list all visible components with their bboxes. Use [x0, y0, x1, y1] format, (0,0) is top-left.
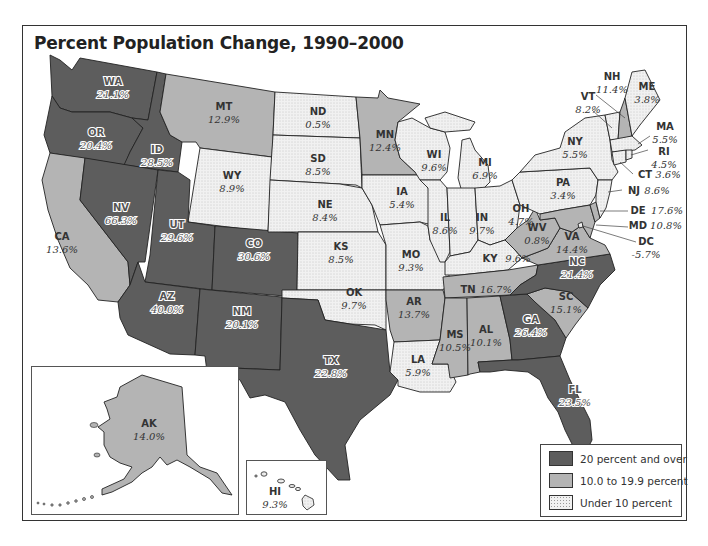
label-LA-pct: 5.9%	[405, 367, 430, 378]
state-NJ[interactable]	[596, 180, 612, 218]
label-WA-pct: 21.1%	[96, 89, 129, 100]
label-NM-pct: 20.1%	[225, 319, 258, 330]
label-GA-abbr: GA	[523, 314, 539, 325]
label-DE-pct: 17.6%	[651, 205, 683, 216]
label-CA-abbr: CA	[54, 231, 69, 242]
label-CO-abbr: CO	[246, 238, 262, 249]
label-VA-abbr: VA	[565, 231, 580, 242]
label-PA-abbr: PA	[556, 177, 570, 188]
legend-item-mid: 10.0 to 19.9 percent	[549, 473, 688, 488]
label-TX-abbr: TX	[324, 355, 339, 366]
label-IL-abbr: IL	[440, 212, 451, 223]
label-MA-abbr: MA	[656, 121, 674, 132]
state-CT[interactable]	[612, 150, 626, 165]
label-OR-abbr: OR	[88, 127, 105, 138]
label-MD-pct: 10.8%	[650, 220, 682, 231]
label-CT-pct: 3.6%	[655, 169, 680, 180]
label-AL-abbr: AL	[479, 324, 494, 335]
label-LA-abbr: LA	[411, 354, 425, 365]
label-AR-abbr: AR	[406, 296, 422, 307]
label-DC-abbr: DC	[638, 236, 654, 247]
label-WI-abbr: WI	[427, 149, 442, 160]
alaska-inset: AK 14.0%	[31, 366, 239, 515]
label-WY-abbr: WY	[223, 170, 242, 181]
state-AK[interactable]	[98, 375, 232, 495]
label-MA-pct: 5.5%	[652, 134, 677, 145]
label-UT-abbr: UT	[170, 219, 185, 230]
label-IA-abbr: IA	[396, 186, 408, 197]
label-AL-pct: 10.1%	[470, 337, 502, 348]
label-FL-pct: 23.5%	[558, 397, 591, 408]
label-VT-abbr: VT	[581, 91, 596, 102]
label-UT-pct: 29.6%	[160, 232, 193, 243]
label-WI-pct: 9.6%	[421, 162, 446, 173]
legend-swatch-low	[549, 495, 573, 510]
label-FL-abbr: FL	[568, 384, 582, 395]
label-MS-pct: 10.5%	[439, 342, 471, 353]
label-MI-abbr: MI	[478, 157, 492, 168]
label-OK-abbr: OK	[346, 287, 364, 298]
label-MT-pct: 12.9%	[208, 114, 240, 125]
label-ID-pct: 28.5%	[140, 157, 173, 168]
label-ND-abbr: ND	[310, 106, 327, 117]
aleutian-islands	[37, 423, 100, 507]
label-TX-pct: 22.8%	[314, 368, 347, 379]
label-IA-pct: 5.4%	[389, 199, 414, 210]
label-WA-abbr: WA	[104, 76, 123, 87]
legend-item-high: 20 percent and over	[549, 451, 687, 466]
label-CA-pct: 13.6%	[46, 244, 78, 255]
label-MN-pct: 12.4%	[369, 142, 401, 153]
label-NE-pct: 8.4%	[312, 212, 337, 223]
label-WV-abbr: WV	[528, 222, 547, 233]
label-KS-abbr: KS	[334, 241, 349, 252]
label-OR-pct: 20.4%	[79, 140, 112, 151]
legend: 20 percent and over 10.0 to 19.9 percent…	[540, 444, 682, 517]
label-CT-abbr: CT	[638, 169, 652, 180]
legend-label-low: Under 10 percent	[580, 497, 672, 509]
label-MO-pct: 9.3%	[398, 262, 423, 273]
label-AK-pct: 14.0%	[133, 431, 165, 442]
label-NV-pct: 66.3%	[105, 215, 137, 226]
label-MD-abbr: MD	[629, 220, 647, 231]
label-NJ-pct: 8.6%	[644, 185, 669, 196]
state-IN[interactable]	[447, 188, 478, 256]
label-IN-abbr: IN	[476, 212, 488, 223]
label-MN-abbr: MN	[376, 129, 394, 140]
label-SD-pct: 8.5%	[305, 166, 330, 177]
label-MT-abbr: MT	[216, 101, 233, 112]
legend-label-mid: 10.0 to 19.9 percent	[580, 475, 688, 487]
label-KY-abbr: KY	[483, 253, 499, 264]
label-ME-abbr: ME	[639, 81, 656, 92]
label-VA-pct: 14.4%	[556, 244, 588, 255]
label-RI-abbr: RI	[658, 146, 669, 157]
label-ND-pct: 0.5%	[305, 119, 330, 130]
label-ME-pct: 3.8%	[634, 94, 659, 105]
state-NM[interactable]	[195, 289, 282, 374]
label-ID-abbr: ID	[151, 144, 163, 155]
label-HI-abbr: HI	[269, 486, 281, 497]
label-IN-pct: 9.7%	[469, 225, 494, 236]
legend-label-high: 20 percent and over	[580, 453, 687, 465]
label-HI-pct: 9.3%	[262, 499, 287, 510]
label-NH-pct: 11.4%	[596, 84, 628, 95]
label-NH-abbr: NH	[604, 71, 621, 82]
label-WY-pct: 8.9%	[219, 183, 244, 194]
label-NJ-abbr: NJ	[628, 185, 640, 196]
legend-swatch-high	[549, 451, 573, 466]
label-NC-pct: 21.4%	[560, 269, 593, 280]
legend-swatch-mid	[549, 473, 573, 488]
label-NV-abbr: NV	[113, 202, 129, 213]
label-NC-abbr: NC	[569, 256, 585, 267]
label-OK-pct: 9.7%	[341, 300, 366, 311]
label-PA-pct: 3.4%	[550, 190, 575, 201]
label-KS-pct: 8.5%	[328, 254, 353, 265]
legend-item-low: Under 10 percent	[549, 495, 672, 510]
label-AZ-pct: 40.0%	[150, 304, 183, 315]
label-SC-abbr: SC	[559, 291, 574, 302]
label-NY-pct: 5.5%	[562, 149, 587, 160]
label-MI-pct: 6.9%	[472, 170, 497, 181]
label-GA-pct: 26.4%	[514, 327, 547, 338]
label-OH-abbr: OH	[513, 203, 530, 214]
label-CO-pct: 30.6%	[238, 251, 270, 262]
label-NE-abbr: NE	[317, 199, 332, 210]
